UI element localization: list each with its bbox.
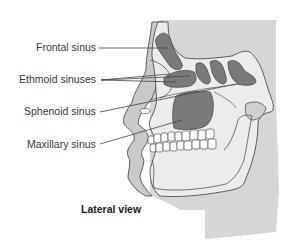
nostril <box>140 109 150 114</box>
label-ethmoid-sinuses: Ethmoid sinuses <box>19 73 96 85</box>
skull-illustration <box>0 0 295 244</box>
label-sphenoid-sinus: Sphenoid sinus <box>24 105 96 117</box>
label-maxillary-sinus: Maxillary sinus <box>27 138 96 150</box>
label-frontal-sinus: Frontal sinus <box>36 41 96 53</box>
maxillary-sinus-shape <box>173 91 214 129</box>
sinus-anatomy-diagram: Frontal sinus Ethmoid sinuses Sphenoid s… <box>0 0 295 244</box>
figure-caption: Lateral view <box>81 203 141 215</box>
